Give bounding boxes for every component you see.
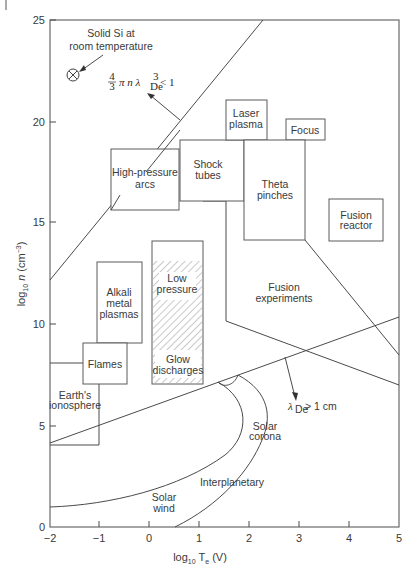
label-fusion-exp-2: experiments (255, 292, 312, 304)
interplanetary-curve (175, 375, 267, 527)
label-focus: Focus (291, 124, 320, 136)
label-ionosphere-2: ionosphere (49, 399, 101, 411)
y-axis: 25 20 15 10 5 0 (33, 14, 56, 533)
y-axis-label: log10 n (cm−3) (15, 242, 29, 307)
svg-text:3: 3 (109, 80, 115, 92)
svg-text:π n λ: π n λ (119, 76, 141, 88)
y-tick-25: 25 (33, 14, 45, 26)
y-tick-15: 15 (33, 216, 45, 228)
solid-si-marker (67, 69, 79, 81)
label-debye-length: λ De > 1 cm (287, 400, 337, 415)
x-tick-0: 0 (146, 532, 152, 544)
label-flames: Flames (88, 358, 122, 370)
label-hp-arcs-2: arcs (135, 178, 155, 190)
debye-number-arrow (150, 95, 180, 120)
label-hp-arcs-1: High-pressure (112, 166, 178, 178)
fusion-experiments-upper-edge (305, 240, 399, 355)
debye-length-arrowhead (292, 392, 298, 401)
label-theta-2: pinches (257, 189, 293, 201)
x-tick-3: 3 (296, 532, 302, 544)
label-solar-corona-2: corona (249, 430, 281, 442)
label-solar-wind-2: wind (152, 502, 175, 514)
label-glow-2: discharges (153, 364, 204, 376)
debye-length-arrow (285, 357, 295, 397)
label-fusion-reactor-2: reactor (340, 219, 373, 231)
plasma-parameter-chart: 25 20 15 10 5 0 −2 −1 0 1 2 3 4 5 log10 … (0, 0, 419, 575)
y-tick-20: 20 (33, 116, 45, 128)
label-interplanetary: Interplanetary (200, 476, 265, 488)
label-low-pressure-2: pressure (157, 283, 198, 295)
x-tick-4: 4 (346, 532, 352, 544)
svg-text:λ: λ (287, 400, 293, 412)
solid-si-arrow (82, 55, 103, 70)
x-tick-minus2: −2 (44, 532, 57, 544)
solid-si-arrowhead (79, 65, 86, 72)
label-solid-si-1: Solid Si at (87, 27, 134, 39)
x-tick-minus1: −1 (93, 532, 106, 544)
x-axis: −2 −1 0 1 2 3 4 5 (44, 521, 402, 544)
svg-text:> 1 cm: > 1 cm (305, 400, 337, 412)
x-axis-label: log10 Te (V) (173, 551, 227, 565)
y-tick-5: 5 (39, 420, 45, 432)
x-tick-1: 1 (196, 532, 202, 544)
label-solid-si-2: room temperature (69, 40, 153, 52)
label-shock-2: tubes (195, 169, 221, 181)
label-debye-number: 4 3 π n λ 3 De < 1 (108, 70, 174, 92)
svg-text:< 1: < 1 (160, 76, 174, 88)
x-tick-2: 2 (246, 532, 252, 544)
x-tick-5: 5 (396, 532, 402, 544)
label-alkali-3: plasmas (99, 308, 138, 320)
y-tick-10: 10 (33, 318, 45, 330)
label-laser-2: plasma (229, 118, 263, 130)
